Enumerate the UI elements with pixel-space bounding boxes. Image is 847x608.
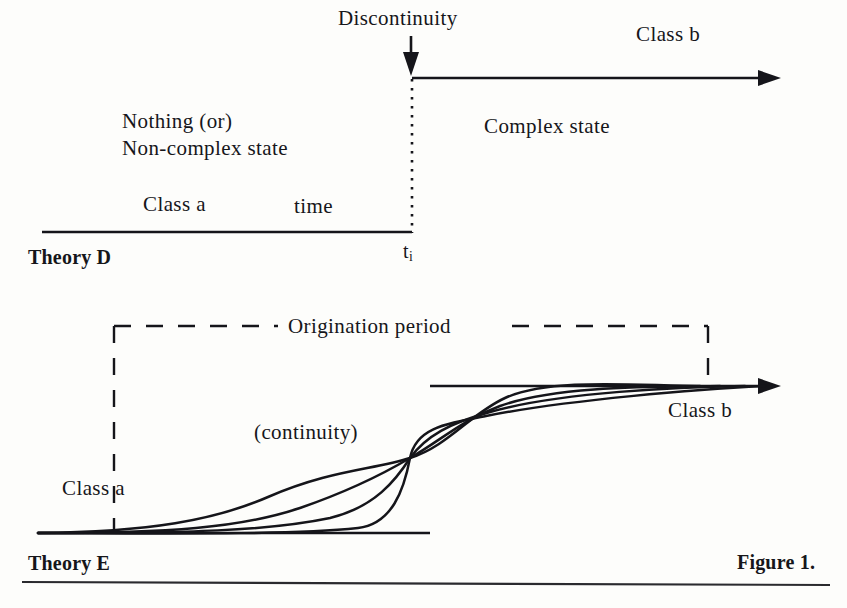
continuity-curve-1 <box>38 384 700 533</box>
theory-e-artwork <box>38 326 781 534</box>
diagram-artwork <box>0 0 847 608</box>
threshold-time-subscript: i <box>409 249 413 264</box>
discontinuity-label: Discontinuity <box>338 6 458 31</box>
theory-d-class-b-label: Class b <box>636 22 700 47</box>
threshold-time-label: ti <box>403 240 413 265</box>
theory-e-class-a-label: Class a <box>62 476 125 501</box>
origination-period-label: Origination period <box>288 314 451 339</box>
figure-caption: Figure 1. <box>737 551 815 575</box>
continuity-label: (continuity) <box>254 420 358 445</box>
theory-d-time-axis-label: time <box>294 194 333 219</box>
theory-d-title: Theory D <box>28 246 111 270</box>
continuity-curve-2 <box>38 386 720 533</box>
theory-d-upper-level-arrow <box>412 70 781 86</box>
theory-e-class-b-label: Class b <box>668 398 732 423</box>
discontinuity-arrow-icon <box>403 36 419 76</box>
theory-d-lower-state-label: Nothing (or) Non-complex state <box>122 108 288 162</box>
theory-e-title: Theory E <box>28 552 110 576</box>
continuity-curve-3 <box>38 386 745 533</box>
footer-rule <box>22 582 830 585</box>
figure-container: Discontinuity Class b Nothing (or) Non-c… <box>0 0 847 608</box>
theory-d-upper-state-label: Complex state <box>484 114 610 139</box>
theory-d-class-a-label: Class a <box>143 192 206 217</box>
